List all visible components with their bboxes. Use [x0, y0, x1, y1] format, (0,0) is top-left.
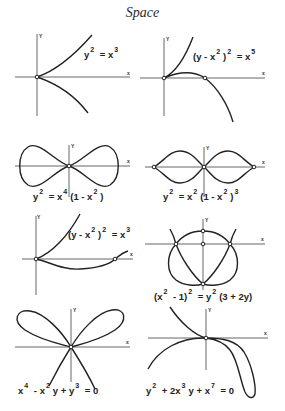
- panel-6-equation: (x2 - 1)2 = y2(3 + 2y): [154, 290, 252, 302]
- panel-3-origin-point: [67, 164, 71, 168]
- panel-1-x-label: x: [127, 70, 130, 76]
- panel-2-y-label: Y: [166, 36, 170, 42]
- panel-7-left-loop: [17, 311, 71, 347]
- panel-3-equation: y2 = x4(1 - x2): [33, 190, 104, 202]
- panel-6-right-node: [228, 242, 232, 246]
- panel-3-x-label: x: [127, 158, 130, 164]
- panel-8-x-label: x: [264, 330, 267, 336]
- panel-1-origin-point: [35, 75, 39, 79]
- panel-4-x-label: x: [262, 159, 265, 165]
- panel-6-y-label: Y: [205, 217, 209, 223]
- panel-7-y-label: Y: [73, 307, 77, 313]
- panel-5-origin-point: [34, 257, 38, 261]
- panel-4-origin-point: [202, 165, 206, 169]
- panel-6-right-branch: [203, 229, 236, 284]
- panel-2-crossing-point: [203, 76, 207, 80]
- panel-6-origin-point: [201, 242, 205, 246]
- panel-1-plot: x Y: [15, 33, 130, 116]
- panel-5-x-label: x: [130, 251, 133, 257]
- panel-2-equation: (y - x2)2 = x5: [193, 50, 258, 62]
- panel-2-x-label: x: [262, 70, 265, 76]
- panel-8-equation: y2 + 2x3y + x7 = 0: [146, 384, 234, 396]
- panel-6-top-point: [201, 229, 205, 233]
- panel-5-y-label: Y: [37, 214, 41, 220]
- panel-8-y-label: Y: [208, 307, 212, 313]
- panel-8-lower-left-branch: [148, 338, 206, 369]
- panel-8-upper-branch: [170, 307, 206, 338]
- panel-4-equation: y2 = x2(1 - x2)3: [163, 190, 241, 202]
- panel-7-equation: x4 - x2y + y3 = 0: [18, 384, 98, 396]
- panel-4-right-cusp: [252, 165, 256, 169]
- panel-6-left-branch: [170, 229, 203, 284]
- panel-7-x-label: x: [126, 339, 129, 345]
- panel-5-plot: x Y: [22, 214, 133, 295]
- panel-4-y-label: Y: [206, 145, 210, 151]
- panel-7-lower-branches: [49, 347, 95, 389]
- panel-7-origin-point: [69, 345, 73, 349]
- panel-6-bottom-cusp: [201, 282, 205, 286]
- panel-2-origin-point: [162, 76, 166, 80]
- panel-7-right-loop: [71, 310, 124, 347]
- panel-1-curve: [37, 35, 92, 113]
- panel-6-x-label: x: [261, 236, 264, 242]
- panel-5-equation: (y - x2)2 = x3: [68, 228, 133, 240]
- panel-1-equation: y2 = x3: [84, 48, 121, 60]
- panel-1-y-label: Y: [39, 33, 43, 39]
- panel-4-left-cusp: [152, 165, 156, 169]
- panel-3-plot: x Y: [15, 143, 130, 197]
- panel-3-y-label: Y: [71, 143, 75, 149]
- panel-6-left-node: [174, 242, 178, 246]
- panel-8-origin-point: [204, 336, 208, 340]
- panel-7-plot: x Y: [15, 307, 130, 389]
- panel-2-plot: x Y: [140, 36, 265, 122]
- panel-5-crossing-point: [113, 257, 117, 261]
- panel-6-plot: x Y: [145, 217, 265, 290]
